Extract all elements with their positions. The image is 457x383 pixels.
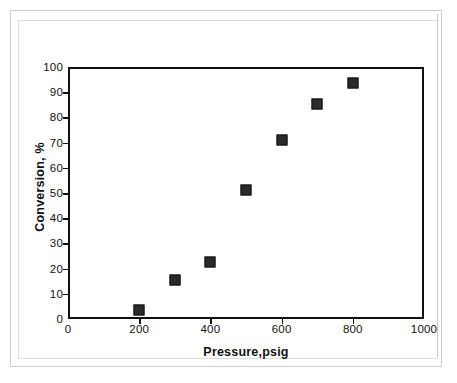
x-axis-tick-label: 200 bbox=[109, 323, 169, 335]
x-axis-tick-mark bbox=[139, 319, 141, 324]
x-axis-tick-label: 400 bbox=[180, 323, 240, 335]
data-point-marker bbox=[241, 185, 252, 196]
x-axis-tick-label: 800 bbox=[323, 323, 383, 335]
x-axis-tick-mark bbox=[210, 319, 212, 324]
x-axis-tick-mark bbox=[282, 319, 284, 324]
x-axis-title: Pressure,psig bbox=[68, 345, 424, 359]
scatter-chart: 0102030405060708090100 02004006008001000… bbox=[0, 0, 457, 383]
y-axis-title: Conversion, % bbox=[33, 102, 47, 272]
data-point-marker bbox=[205, 257, 216, 268]
x-axis-tick-label: 0 bbox=[38, 323, 98, 335]
data-point-marker bbox=[276, 135, 287, 146]
x-axis-tick-label: 1000 bbox=[394, 323, 454, 335]
data-point-marker bbox=[347, 78, 358, 89]
data-point-marker bbox=[134, 305, 145, 316]
data-point-marker bbox=[312, 98, 323, 109]
x-axis-tick-label: 600 bbox=[252, 323, 312, 335]
x-axis-tick-labels: 02004006008001000 bbox=[0, 0, 457, 383]
data-point-marker bbox=[169, 274, 180, 285]
x-axis-tick-mark bbox=[353, 319, 355, 324]
